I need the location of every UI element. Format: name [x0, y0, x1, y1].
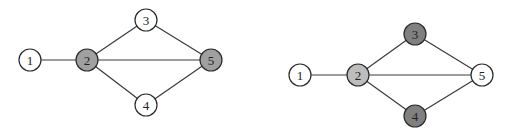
node-label: 1 — [27, 53, 34, 68]
graph-diagram: 12345 12345 — [0, 0, 506, 135]
node-4: 4 — [135, 94, 157, 116]
node-label: 2 — [84, 53, 91, 68]
node-2: 2 — [76, 49, 98, 71]
edge-3-5 — [415, 34, 482, 75]
left-graph: 12345 — [19, 9, 222, 116]
node-1: 1 — [19, 49, 41, 71]
node-3: 3 — [404, 23, 426, 45]
node-label: 5 — [208, 53, 215, 68]
node-3: 3 — [135, 9, 157, 31]
edge-4-5 — [415, 75, 482, 116]
node-1: 1 — [289, 64, 311, 86]
node-label: 5 — [479, 68, 486, 83]
node-label: 4 — [143, 98, 150, 113]
node-2: 2 — [347, 64, 369, 86]
node-label: 1 — [297, 68, 304, 83]
node-label: 3 — [143, 13, 150, 28]
right-graph: 12345 — [289, 23, 493, 127]
node-label: 3 — [412, 27, 419, 42]
node-5: 5 — [471, 64, 493, 86]
node-5: 5 — [200, 49, 222, 71]
edge-4-5 — [146, 60, 211, 105]
node-4: 4 — [404, 105, 426, 127]
node-label: 4 — [412, 109, 419, 124]
node-label: 2 — [355, 68, 362, 83]
